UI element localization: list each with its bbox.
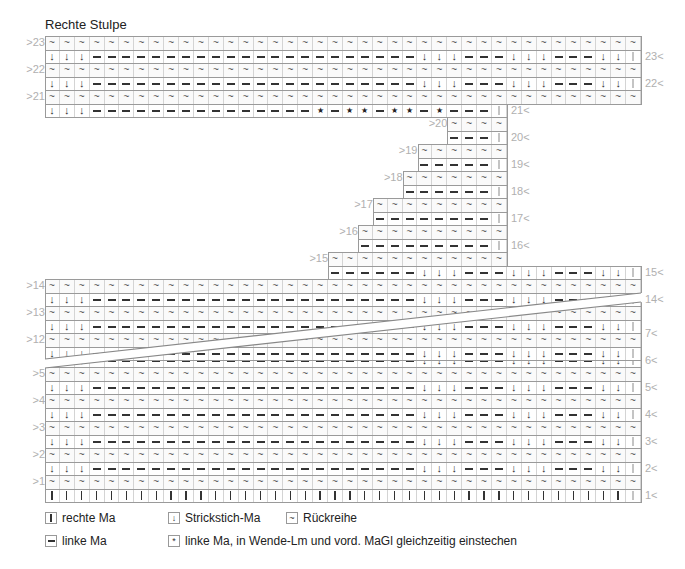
star-icon: * [168,535,180,547]
legend-label: linke Ma, in Wende-Lm und vord. MaGl gle… [185,534,517,548]
dash-symbol-icon [45,535,57,547]
legend-item-dash: linke Ma [45,534,107,548]
legend-item-knit: rechte Ma [45,511,115,525]
legend-label: rechte Ma [62,511,115,525]
chart-break-wedge [0,0,685,520]
legend-label: Strickstich-Ma [185,511,260,525]
legend-label: linke Ma [62,534,107,548]
tilde-icon: ~ [286,512,298,524]
legend-item-arrow: ↓ Strickstich-Ma [168,511,260,525]
arrow-down-icon: ↓ [168,512,180,524]
legend-label: Rückreihe [303,511,357,525]
legend-item-star: * linke Ma, in Wende-Lm und vord. MaGl g… [168,534,517,548]
legend-item-tilde: ~ Rückreihe [286,511,357,525]
knit-symbol-icon [45,512,57,524]
